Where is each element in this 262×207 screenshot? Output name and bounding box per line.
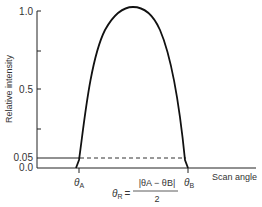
chart: 1.0 0.5 0.05 0.0 Relative intensity θA θ… — [0, 0, 262, 207]
intensity-curve — [76, 7, 188, 168]
formula-lhs: θR= — [112, 188, 131, 200]
y-label-1: 1.0 — [19, 6, 33, 17]
y-label-05: 0.5 — [19, 84, 33, 95]
y-label-0: 0.0 — [19, 162, 33, 173]
x-label-thetaA: θA — [74, 177, 84, 189]
x-label-thetaB: θB — [184, 177, 194, 189]
formula-numerator: |θA − θB| — [139, 178, 175, 188]
x-axis-title: Scan angle — [212, 172, 257, 182]
y-axis-title: Relative intensity — [4, 54, 14, 123]
formula-denominator: 2 — [154, 194, 159, 204]
